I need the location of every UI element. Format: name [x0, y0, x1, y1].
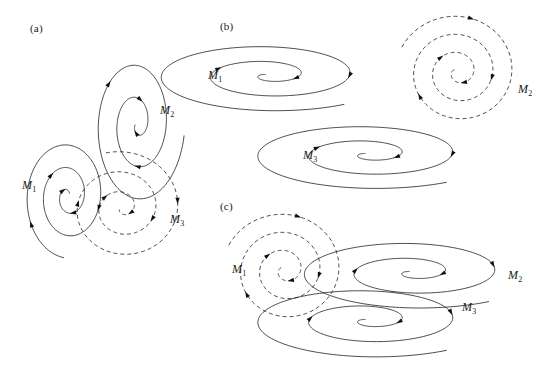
- direction-arrow-icon: [346, 71, 353, 79]
- direction-arrow-icon: [175, 198, 179, 205]
- direction-arrow-icon: [294, 213, 301, 219]
- direction-arrow-icon: [59, 187, 67, 194]
- direction-arrow-icon: [287, 278, 294, 283]
- mass-label-a-m1: M1: [22, 178, 36, 193]
- mass-label-subscript: 2: [170, 110, 174, 119]
- mass-label-a-m3: M3: [170, 212, 184, 227]
- spiral-panel-b-M2: [402, 15, 512, 118]
- mass-label-c-m2: M2: [508, 268, 522, 283]
- direction-arrow-icon: [28, 221, 34, 228]
- spiral-panel-a-M2: [98, 65, 184, 199]
- mass-label-base: M: [303, 148, 313, 162]
- mass-label-subscript: 1: [242, 269, 246, 278]
- direction-arrow-icon: [105, 80, 112, 88]
- direction-arrow-icon: [292, 75, 299, 81]
- mass-label-subscript: 3: [180, 219, 184, 228]
- mass-label-b-m1: M1: [208, 68, 222, 83]
- direction-arrow-icon: [467, 15, 474, 21]
- mass-label-base: M: [160, 103, 170, 117]
- mass-label-subscript: 2: [528, 89, 532, 98]
- trajectory-curve: [402, 16, 512, 118]
- direction-arrow-icon: [449, 150, 456, 158]
- mass-label-base: M: [462, 300, 472, 314]
- trajectory-curve: [98, 65, 184, 199]
- direction-arrow-icon: [127, 209, 135, 216]
- direction-arrow-icon: [133, 129, 140, 137]
- mass-label-base: M: [170, 212, 180, 226]
- direction-arrow-icon: [316, 272, 322, 279]
- mass-label-base: M: [518, 82, 528, 96]
- panel-label-b: (b): [220, 20, 233, 32]
- spiral-panel-a-M3: [75, 152, 180, 255]
- mass-label-subscript: 3: [313, 155, 317, 164]
- mass-label-base: M: [232, 262, 242, 276]
- trajectory-curve: [27, 145, 101, 258]
- mass-label-subscript: 3: [472, 307, 476, 316]
- figure-canvas: (a)M1M2M3(b)M1M2M3(c)M1M2M3: [0, 0, 549, 368]
- direction-arrow-icon: [437, 54, 445, 61]
- spiral-panel-b-M1: [161, 47, 353, 111]
- direction-arrow-icon: [489, 74, 495, 81]
- mass-label-a-m2: M2: [160, 103, 174, 118]
- trajectory-curve: [304, 243, 494, 308]
- mass-label-base: M: [208, 68, 218, 82]
- mass-label-subscript: 1: [32, 185, 36, 194]
- mass-label-b-m3: M3: [303, 148, 317, 163]
- direction-arrow-icon: [134, 164, 141, 170]
- direction-arrow-icon: [75, 200, 81, 207]
- mass-label-subscript: 2: [518, 275, 522, 284]
- spiral-panel-b-M3: [258, 127, 456, 189]
- trajectory-curve: [161, 47, 350, 111]
- trajectory-curve: [258, 291, 453, 357]
- direction-arrow-icon: [149, 215, 156, 223]
- spiral-panel-c-M2: [304, 243, 496, 308]
- mass-label-b-m2: M2: [518, 82, 532, 97]
- trajectory-curve: [258, 127, 453, 189]
- panel-label-a: (a): [30, 22, 43, 34]
- direction-arrow-icon: [460, 80, 467, 85]
- panel-label-c: (c): [220, 200, 233, 212]
- trajectory-curve: [77, 152, 178, 255]
- direction-arrow-icon: [264, 252, 272, 259]
- mass-label-subscript: 1: [218, 75, 222, 84]
- mass-label-c-m1: M1: [232, 262, 246, 277]
- mass-label-base: M: [508, 268, 518, 282]
- direction-arrow-icon: [243, 290, 250, 298]
- mass-label-c-m3: M3: [462, 300, 476, 315]
- direction-arrow-icon: [393, 154, 400, 160]
- direction-arrow-icon: [416, 92, 423, 100]
- spiral-panel-c-M3: [258, 291, 454, 357]
- mass-label-base: M: [22, 178, 32, 192]
